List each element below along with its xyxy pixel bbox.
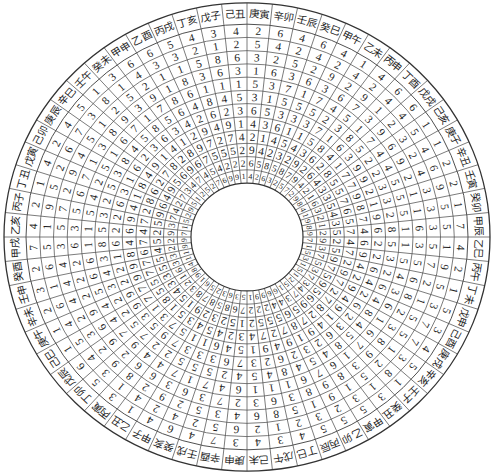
ring-number: 2 [331,238,344,244]
ring-number: 2 [165,238,176,243]
ring-number: 2 [254,424,261,436]
ring-number: 5 [236,91,243,103]
ring-number: 2 [233,38,240,50]
ring-number: 1 [250,344,256,356]
ring-number: 3 [427,225,440,231]
jiazi-label: 甲辰 [472,215,485,235]
ring-number: 1 [241,172,246,181]
ring-number: 9 [318,238,329,243]
ring-number: 4 [234,410,241,422]
ring-number: 4 [255,437,262,449]
ring-number: 4 [250,118,257,130]
ring-number: 1 [248,293,253,302]
ring-number: 6 [68,242,81,248]
ring-number: 1 [252,384,258,396]
jiazi-label: 乙巳 [472,239,485,259]
ring-number: 5 [150,238,163,244]
ring-number: 2 [150,229,163,235]
ring-number: 6 [235,384,242,396]
ring-number: 5 [251,371,258,383]
ring-number: 2 [239,144,246,156]
ring-number: 1 [235,78,241,90]
ring-number: 2 [255,25,262,37]
jiazi-label: 庚申 [224,454,245,467]
ring-number: 1 [41,224,54,230]
ring-number: 5 [241,293,246,302]
jiazi-label: 庚寅 [249,7,270,20]
ring-number: 7 [180,232,189,236]
ring-number: 6 [248,158,254,169]
ring-number: 4 [358,228,371,234]
ring-number: 6 [358,240,371,246]
ring-number: 7 [137,239,150,245]
ring-number: 2 [240,158,246,169]
ring-number: 5 [331,229,344,235]
ring-number: 7 [237,358,244,370]
ring-number: 2 [248,305,254,316]
ring-number: 5 [96,226,109,232]
ring-number: 6 [233,424,240,436]
ring-number: 5 [254,38,261,50]
ring-number: 9 [165,230,176,235]
ring-number: 3 [251,91,258,103]
ring-number: 4 [233,25,240,37]
ring-number: 1 [400,242,413,248]
ring-number: 2 [318,230,329,235]
ring-number: 4 [455,245,468,251]
jiazi-label: 甲戌 [9,239,22,259]
ring-number: 6 [123,228,136,234]
ring-number: 7 [27,244,40,250]
jiazi-number-wheel: 庚寅辛卯壬辰癸巳甲午乙未丙申丁酉戊戌己亥庚子辛丑壬寅癸卯甲辰乙巳丙午丁未戊申己酉… [0,0,494,473]
ring-number: 7 [305,238,314,242]
ring-number: 1 [239,318,245,330]
ring-number: 3 [238,331,245,343]
ring-number: 1 [400,226,413,232]
ring-number: 9 [305,232,314,236]
ring-number: 3 [232,437,239,449]
ring-number: 6 [253,410,260,422]
ring-number: 4 [249,331,256,343]
ring-number: 5 [54,224,67,230]
ring-number: 9 [180,238,189,242]
ring-number: 4 [345,239,358,245]
jiazi-label: 乙亥 [9,215,22,235]
ring-number: 7 [455,223,468,229]
ring-number: 4 [236,371,243,383]
ring-number: 3 [250,358,257,370]
ring-number: 6 [251,104,258,116]
ring-number: 5 [41,244,54,250]
ring-number: 6 [372,227,385,233]
jiazi-label: 己丑 [224,7,245,20]
ring-number: 2 [109,227,122,233]
ring-number: 8 [386,227,399,233]
ring-number: 3 [413,243,426,249]
ring-number: 7 [240,305,246,316]
ring-number: 2 [248,318,255,330]
ring-number: 3 [252,397,259,409]
ring-number: 5 [441,224,454,230]
ring-number: 5 [252,78,259,90]
ring-number: 3 [237,104,244,116]
ring-number: 1 [82,226,95,232]
ring-number: 2 [249,131,256,143]
ring-number: 3 [235,65,242,77]
ring-number: 1 [82,242,95,248]
jiazi-label: 己未 [249,454,270,467]
ring-number: 4 [27,223,40,229]
ring-number: 5 [237,344,244,356]
ring-number: 6 [234,51,241,63]
ring-number: 6 [413,225,426,231]
ring-number: 7 [345,229,358,235]
ring-number: 5 [427,243,440,249]
ring-number: 2 [372,241,385,247]
ring-number: 1 [253,65,259,77]
ring-number: 3 [54,243,67,249]
ring-number: 1 [238,118,244,130]
ring-number: 4 [137,228,150,234]
ring-number: 5 [386,241,399,247]
ring-number: 8 [96,241,109,247]
ring-number: 3 [254,51,261,63]
ring-number: 2 [234,397,241,409]
ring-number: 4 [238,131,245,143]
ring-number: 9 [249,144,256,156]
